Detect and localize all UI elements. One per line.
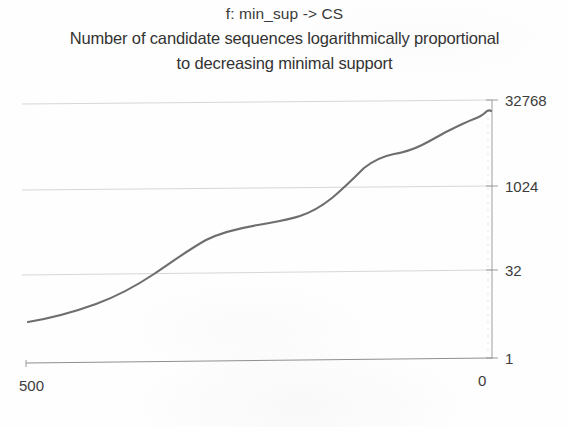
chart-figure: f: min_sup -> CS Number of candidate seq… [0,0,569,427]
x-axis-line [26,358,492,363]
gridline-32768 [22,100,492,104]
gridline-1024 [22,186,492,190]
data-curve [28,110,491,322]
y-axis-label-32: 32 [505,262,522,279]
y-axis-label-1024: 1024 [505,178,538,195]
gridlines [22,100,492,275]
chart-plot-area [0,0,569,427]
gridline-32 [22,270,492,275]
x-axis-label-0: 0 [478,372,486,389]
x-axis-label-500: 500 [19,377,44,394]
y-axis-label-1: 1 [505,350,513,367]
y-axis-label-32768: 32768 [505,92,547,109]
